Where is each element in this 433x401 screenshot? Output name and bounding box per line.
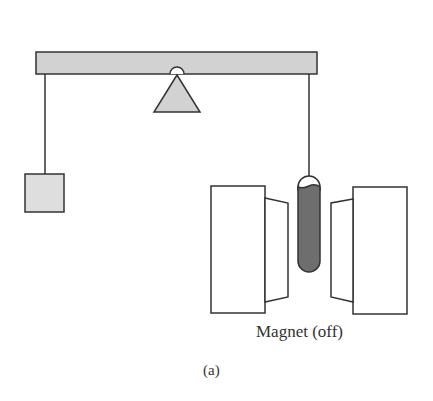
fulcrum-notch — [170, 67, 184, 74]
magnet-label: Magnet (off) — [256, 322, 343, 342]
magnet-right-body — [353, 187, 407, 314]
balance-diagram — [0, 0, 433, 401]
fulcrum — [154, 75, 200, 112]
magnet-left-pole — [265, 198, 288, 302]
magnet-left-body — [211, 186, 265, 313]
counterweight — [25, 174, 64, 212]
sample-tube — [298, 185, 320, 272]
figure-label: (a) — [203, 362, 220, 379]
magnet-right-pole — [331, 199, 353, 302]
